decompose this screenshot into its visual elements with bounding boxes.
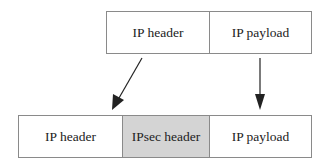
payload-arrow-icon — [255, 58, 265, 110]
arrows — [0, 0, 329, 164]
header-arrow-icon — [112, 58, 142, 110]
